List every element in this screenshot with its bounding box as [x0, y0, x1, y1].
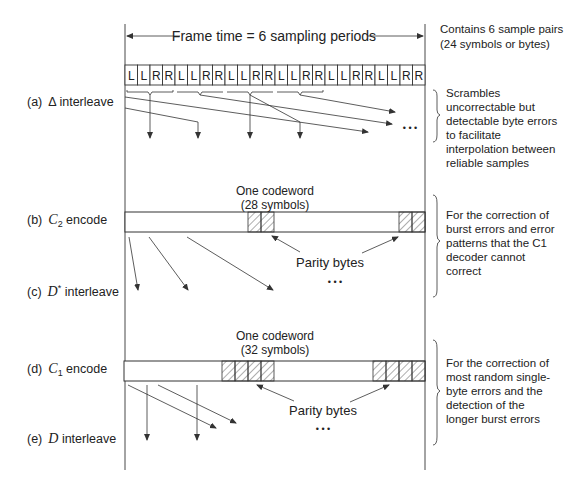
c1-parity-label: Parity bytes	[289, 403, 357, 418]
parity-block	[261, 212, 274, 232]
symbol-cell: L	[375, 65, 388, 85]
note-a: Scrambles uncorrectable but detectable b…	[446, 87, 557, 169]
d-interleave-arrows	[128, 385, 236, 440]
svg-text:(d)C1 encode: (d)C1 encode	[27, 361, 107, 378]
svg-text:L: L	[328, 69, 335, 83]
svg-text:R: R	[302, 69, 311, 83]
svg-text:(e)D interleave: (e)D interleave	[27, 431, 116, 446]
svg-text:L: L	[228, 69, 235, 83]
stage-label-c: (c)D* interleave	[27, 283, 119, 299]
svg-text:byte errors and the: byte errors and the	[446, 385, 543, 397]
svg-text:detection of the: detection of the	[446, 399, 525, 411]
svg-text:burst errors and error: burst errors and error	[446, 223, 555, 235]
symbol-cell: L	[338, 65, 351, 85]
stage-label-a: (a)Δ interleave	[27, 95, 114, 109]
svg-text:Scrambles: Scrambles	[446, 87, 501, 99]
symbol-cell: L	[188, 65, 201, 85]
stage-label-d: (d)C1 encode	[27, 361, 107, 378]
brace-d	[433, 340, 440, 445]
stage-label-b: (b)C2 encode	[27, 212, 107, 229]
delta-interleave-arrows	[125, 90, 395, 138]
svg-text:R: R	[152, 69, 161, 83]
c1-parity-arrows	[257, 385, 389, 402]
svg-text:(c)D* interleave: (c)D* interleave	[27, 283, 119, 299]
parity-block	[235, 361, 248, 381]
svg-text:For the correction of: For the correction of	[446, 357, 550, 369]
svg-text:L: L	[290, 69, 297, 83]
c1-codeword: One codeword (32 symbols)	[124, 329, 425, 381]
svg-text:reliable samples: reliable samples	[446, 157, 529, 169]
svg-text:R: R	[164, 69, 173, 83]
svg-text:detectable byte errors: detectable byte errors	[446, 115, 557, 127]
svg-text:L: L	[340, 69, 347, 83]
parity-block	[386, 361, 399, 381]
svg-text:correct: correct	[446, 265, 482, 277]
c2-ellipsis: • • •	[328, 277, 342, 287]
ellipsis-a: • • •	[403, 123, 417, 133]
symbol-cell: L	[288, 65, 301, 85]
symbol-cell: R	[313, 65, 326, 85]
frame-time-label: Frame time = 6 sampling periods	[172, 28, 376, 44]
svg-text:R: R	[414, 69, 423, 83]
c2-codeword: One codeword (28 symbols)	[125, 184, 425, 232]
symbol-cell: L	[388, 65, 401, 85]
svg-text:(a)Δ interleave: (a)Δ interleave	[27, 95, 114, 109]
svg-text:L: L	[278, 69, 285, 83]
svg-text:to facilitate: to facilitate	[446, 129, 501, 141]
parity-block	[222, 361, 235, 381]
svg-text:longer burst errors: longer burst errors	[446, 413, 540, 425]
svg-text:L: L	[240, 69, 247, 83]
frame-note-line-2: (24 symbols or bytes)	[440, 38, 550, 50]
svg-text:(b)C2 encode: (b)C2 encode	[27, 212, 107, 229]
symbol-cell: R	[350, 65, 363, 85]
svg-text:L: L	[390, 69, 397, 83]
parity-block	[399, 212, 412, 232]
symbol-cell: R	[200, 65, 213, 85]
symbol-cell: L	[275, 65, 288, 85]
brace-a	[433, 90, 440, 142]
svg-text:(28 symbols): (28 symbols)	[241, 198, 310, 212]
symbol-cell: R	[263, 65, 276, 85]
symbol-cell: L	[138, 65, 151, 85]
svg-text:R: R	[314, 69, 323, 83]
stage-label-e: (e)D interleave	[27, 431, 116, 446]
svg-text:R: R	[202, 69, 211, 83]
symbol-cell: L	[175, 65, 188, 85]
svg-text:R: R	[402, 69, 411, 83]
note-d: For the correction of most random single…	[446, 357, 550, 425]
c2-parity-arrows	[272, 236, 398, 253]
svg-text:L: L	[190, 69, 197, 83]
svg-text:L: L	[378, 69, 385, 83]
symbol-cell: R	[250, 65, 263, 85]
svg-text:decoder cannot: decoder cannot	[446, 251, 526, 263]
svg-text:R: R	[264, 69, 273, 83]
symbol-cell: L	[325, 65, 338, 85]
svg-text:One codeword: One codeword	[236, 184, 314, 198]
symbol-cell: R	[150, 65, 163, 85]
svg-text:R: R	[214, 69, 223, 83]
symbol-cell: R	[300, 65, 313, 85]
svg-text:L: L	[178, 69, 185, 83]
svg-text:patterns that the C1: patterns that the C1	[446, 237, 547, 249]
symbol-cell: R	[363, 65, 376, 85]
symbol-cell: L	[238, 65, 251, 85]
symbol-cell: R	[400, 65, 413, 85]
note-b: For the correction of burst errors and e…	[446, 209, 555, 277]
parity-block	[412, 212, 425, 232]
parity-block	[399, 361, 412, 381]
brace-b	[433, 195, 440, 297]
svg-text:L: L	[140, 69, 147, 83]
parity-block	[412, 361, 425, 381]
symbol-cell: R	[413, 65, 426, 85]
parity-block	[248, 212, 261, 232]
frame-time-dimension: Frame time = 6 sampling periods	[127, 28, 423, 44]
frame-note-line-1: Contains 6 sample pairs	[440, 23, 564, 35]
svg-text:most random single-: most random single-	[446, 371, 550, 383]
parity-block	[248, 361, 261, 381]
svg-text:R: R	[252, 69, 261, 83]
svg-text:interpolation between: interpolation between	[446, 143, 555, 155]
svg-text:R: R	[352, 69, 361, 83]
interleave-diagram: Frame time = 6 sampling periods Contains…	[0, 0, 573, 497]
svg-text:One codeword: One codeword	[236, 329, 314, 343]
c2-parity-label: Parity bytes	[296, 255, 364, 270]
